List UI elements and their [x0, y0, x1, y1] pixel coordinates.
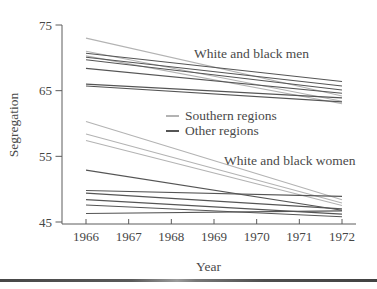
x-tick-label: 1966	[73, 229, 100, 244]
x-tick-label: 1968	[158, 229, 184, 244]
legend-label-other: Other regions	[185, 123, 259, 139]
y-axis-label-container: Segregation	[2, 60, 26, 190]
figure: 455565751966196719681969197019711972 Seg…	[0, 0, 377, 289]
y-tick-label: 65	[39, 83, 52, 98]
series-line-men-other-3	[86, 60, 342, 90]
page-bottom-rule	[0, 279, 377, 282]
other-line-swatch-icon	[166, 130, 179, 132]
legend: Southern regions Other regions	[166, 108, 277, 138]
y-tick-label: 75	[39, 18, 52, 33]
x-tick-label: 1967	[116, 229, 143, 244]
chart-svg: 455565751966196719681969197019711972	[0, 0, 377, 289]
x-tick-label: 1972	[329, 229, 355, 244]
series-line-women-other-1	[86, 170, 342, 210]
southern-line-swatch-icon	[166, 115, 179, 117]
y-axis-label: Segregation	[6, 93, 22, 157]
legend-label-southern: Southern regions	[185, 108, 277, 124]
x-tick-label: 1971	[286, 229, 312, 244]
y-tick-label: 45	[39, 215, 52, 230]
annotation-women: White and black women	[224, 153, 356, 169]
y-tick-label: 55	[39, 149, 52, 164]
x-tick-label: 1970	[244, 229, 270, 244]
annotation-men: White and black men	[194, 46, 309, 62]
x-tick-label: 1969	[201, 229, 227, 244]
legend-item-southern: Southern regions	[166, 108, 277, 123]
series-line-men-southern-3	[86, 56, 342, 104]
legend-item-other: Other regions	[166, 123, 277, 138]
x-axis-label: Year	[196, 259, 221, 275]
series-line-men-other-5	[86, 84, 342, 98]
